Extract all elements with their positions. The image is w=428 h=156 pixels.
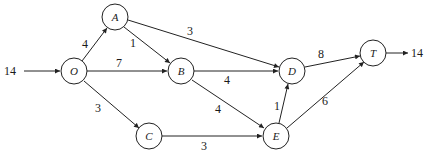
node-label: A bbox=[111, 11, 119, 23]
node-B: B bbox=[168, 58, 194, 84]
node-label: E bbox=[272, 130, 280, 142]
node-label: B bbox=[178, 65, 185, 77]
edge-label: 4 bbox=[215, 102, 221, 116]
edge-O-C: 3 bbox=[84, 81, 139, 128]
node-label: O bbox=[70, 65, 78, 77]
supply-arrow: 14 bbox=[4, 64, 60, 78]
edge-D-T: 8 bbox=[305, 47, 360, 67]
edge-O-B: 7 bbox=[87, 56, 167, 71]
demand-arrow: 14 bbox=[386, 46, 423, 60]
edge-label: 4 bbox=[224, 73, 230, 87]
demand-value: 14 bbox=[411, 46, 423, 60]
node-O: O bbox=[61, 58, 87, 84]
edge-label: 6 bbox=[322, 94, 328, 108]
edge-label: 7 bbox=[116, 56, 122, 70]
edge-label: 1 bbox=[274, 99, 280, 113]
node-E: E bbox=[263, 123, 289, 149]
edge-label: 3 bbox=[187, 24, 193, 38]
node-label: C bbox=[145, 130, 153, 142]
supply-value: 14 bbox=[4, 64, 16, 78]
node-A: A bbox=[102, 4, 128, 30]
network-diagram: 14 4 7 3 1 3 4 4 3 1 8 6 bbox=[0, 0, 428, 156]
node-D: D bbox=[279, 58, 305, 84]
edge-label: 1 bbox=[130, 36, 136, 50]
edge-B-D: 4 bbox=[194, 71, 278, 87]
edge-E-D: 1 bbox=[274, 84, 288, 123]
edge-O-A: 4 bbox=[82, 28, 107, 61]
edge-A-B: 1 bbox=[124, 27, 170, 63]
node-C: C bbox=[136, 123, 162, 149]
edge-B-E: 4 bbox=[192, 80, 264, 128]
node-T: T bbox=[360, 40, 386, 66]
edge-C-E: 3 bbox=[162, 136, 262, 153]
edge-label: 3 bbox=[201, 139, 207, 153]
edge-label: 3 bbox=[95, 101, 101, 115]
edge-A-D: 3 bbox=[128, 20, 279, 67]
edge-label: 8 bbox=[318, 47, 324, 61]
node-label: T bbox=[370, 47, 377, 59]
edge-label: 4 bbox=[82, 37, 88, 51]
node-label: D bbox=[287, 65, 296, 77]
